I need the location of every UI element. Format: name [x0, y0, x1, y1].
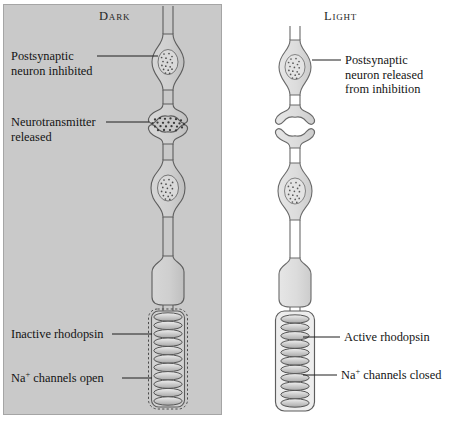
label-line: neuron released	[345, 68, 423, 83]
figure-photoreceptor-dark-light: Dark Light Postsynaptic neuron inhibited…	[0, 0, 450, 430]
label-postsynaptic-neuron-inhibited: Postsynaptic neuron inhibited	[11, 49, 93, 78]
dark-panel-title: Dark	[99, 9, 130, 24]
light-inner-segment	[279, 258, 311, 307]
label-line: Active rhodopsin	[344, 330, 430, 345]
light-rhodopsin-discs	[281, 315, 309, 407]
label-na-channels-closed: Na+ channels closed	[341, 368, 441, 383]
label-postsynaptic-neuron-released: Postsynaptic neuron released from inhibi…	[345, 53, 423, 97]
label-line: from inhibition	[345, 82, 423, 97]
label-na-channels-open: Na+ channels open	[11, 371, 104, 386]
label-active-rhodopsin: Active rhodopsin	[344, 330, 430, 345]
channels-open-text: channels open	[30, 371, 104, 385]
label-line: Inactive rhodopsin	[11, 327, 104, 342]
light-photoreceptor-cell	[275, 26, 314, 411]
label-neurotransmitter-released: Neurotransmitter released	[11, 115, 96, 144]
dark-rhodopsin-discs	[154, 313, 182, 405]
label-line: released	[11, 130, 96, 145]
label-line: Postsynaptic	[11, 49, 93, 64]
dark-inner-segment	[152, 256, 184, 305]
label-line: Na+ channels closed	[341, 368, 441, 383]
label-inactive-rhodopsin: Inactive rhodopsin	[11, 327, 104, 342]
label-line: Na+ channels open	[11, 371, 104, 386]
channels-closed-text: channels closed	[360, 368, 441, 382]
label-line: Postsynaptic	[345, 53, 423, 68]
light-postsynaptic-terminal	[275, 105, 314, 124]
label-line: neuron inhibited	[11, 64, 93, 79]
light-presynaptic-terminal	[275, 129, 314, 148]
na-ion-text: Na	[11, 371, 25, 385]
light-panel-title: Light	[324, 9, 357, 24]
na-ion-text: Na	[341, 368, 355, 382]
label-line: Neurotransmitter	[11, 115, 96, 130]
